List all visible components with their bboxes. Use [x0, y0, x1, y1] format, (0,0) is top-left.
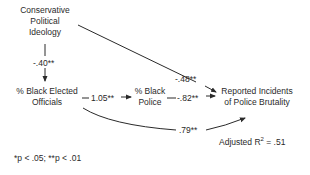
- node-ideology-line1: Conservative: [12, 5, 78, 16]
- coef-ideology-officials: -.40**: [33, 58, 54, 68]
- adjusted-r-squared: Adjusted R2 = .51: [219, 134, 285, 147]
- coef-officials-police: 1.05**: [91, 93, 114, 103]
- coef-officials-brutality: .79**: [179, 125, 197, 135]
- node-police-line1: % Black: [130, 86, 170, 97]
- r-squared-value: = .51: [264, 137, 286, 147]
- node-ideology-line3: Ideology: [12, 27, 78, 38]
- node-brutality-line2: of Police Brutality: [216, 97, 298, 108]
- node-conservative-ideology: Conservative Political Ideology: [12, 5, 78, 38]
- node-brutality-line1: Reported Incidents: [216, 86, 298, 97]
- node-black-elected-officials: % Black Elected Officials: [12, 86, 82, 108]
- node-officials-line1: % Black Elected: [12, 86, 82, 97]
- node-police-line2: Police: [130, 97, 170, 108]
- node-black-police: % Black Police: [130, 86, 170, 108]
- node-officials-line2: Officials: [12, 97, 82, 108]
- node-ideology-line2: Political: [12, 16, 78, 27]
- arrow-officials-brutality: [206, 118, 245, 130]
- r-squared-label: Adjusted R: [219, 137, 261, 147]
- node-reported-police-brutality: Reported Incidents of Police Brutality: [216, 86, 298, 108]
- arrow-officials-brutality-curve: [83, 108, 176, 130]
- arrow-ideology-brutality: [205, 86, 216, 92]
- coef-ideology-brutality: -.48**: [175, 74, 196, 84]
- coef-police-brutality: -.82**: [177, 93, 198, 103]
- significance-footnote: *p < .05; **p < .01: [14, 153, 81, 163]
